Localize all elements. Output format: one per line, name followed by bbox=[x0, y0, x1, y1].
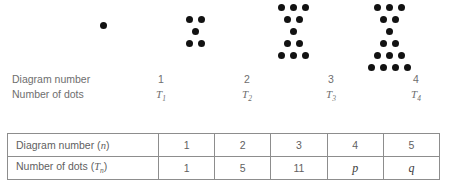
dot bbox=[392, 40, 399, 47]
table-cell: 2 bbox=[215, 134, 271, 157]
caption-row-diagram-number: Diagram number 1 2 3 4 bbox=[0, 73, 470, 88]
table-cell: 1 bbox=[159, 134, 215, 157]
sequence-table: Diagram number (n)12345Number of dots (T… bbox=[7, 133, 440, 180]
dot bbox=[404, 64, 411, 71]
dot bbox=[290, 4, 297, 11]
dot bbox=[380, 40, 387, 47]
dot bbox=[100, 22, 107, 29]
dot bbox=[386, 52, 393, 59]
dot bbox=[386, 4, 393, 11]
caption-row-number-of-dots: Number of dots T1 T2 T3 T4 bbox=[0, 88, 470, 103]
dot bbox=[368, 64, 375, 71]
table-cell: p bbox=[327, 157, 383, 180]
table-header-variable: n bbox=[101, 140, 106, 151]
dot bbox=[186, 16, 193, 23]
dot bbox=[192, 28, 199, 35]
dot bbox=[186, 40, 193, 47]
dot bbox=[392, 64, 399, 71]
caption-dots-term-3: T3 bbox=[311, 88, 351, 103]
table-cell: 4 bbox=[327, 134, 383, 157]
table-cell: 5 bbox=[383, 134, 439, 157]
dot bbox=[290, 28, 297, 35]
dot bbox=[198, 16, 205, 23]
caption-dots-subscript-1: 1 bbox=[162, 94, 166, 103]
caption-dots-term-1: T1 bbox=[141, 88, 181, 103]
dot bbox=[386, 28, 393, 35]
dot bbox=[302, 4, 309, 11]
sequence-table-body: Diagram number (n)12345Number of dots (T… bbox=[8, 134, 440, 180]
table-row: Diagram number (n)12345 bbox=[8, 134, 440, 157]
caption-dots-subscript-2: 2 bbox=[248, 94, 252, 103]
table-cell: 3 bbox=[271, 134, 327, 157]
caption-diagram-number-2: 2 bbox=[227, 73, 267, 85]
dot-diagrams-figure bbox=[0, 0, 470, 70]
caption-dots-subscript-3: 3 bbox=[332, 94, 336, 103]
dot bbox=[284, 16, 291, 23]
table-row-header: Number of dots (Tn) bbox=[8, 157, 159, 180]
table-row: Number of dots (Tn)1511pq bbox=[8, 157, 440, 180]
caption-dots-subscript-4: 4 bbox=[417, 94, 421, 103]
table-header-subscript: n bbox=[100, 167, 104, 176]
caption-diagram-number-4: 4 bbox=[396, 73, 436, 85]
dot bbox=[284, 40, 291, 47]
table-header-variable: Tn bbox=[94, 161, 104, 172]
table-cell: q bbox=[383, 157, 439, 180]
dot bbox=[398, 52, 405, 59]
caption-diagram-number-1: 1 bbox=[141, 73, 181, 85]
caption-label-number-of-dots: Number of dots bbox=[12, 88, 84, 100]
dot bbox=[392, 16, 399, 23]
table-cell: 1 bbox=[159, 157, 215, 180]
caption-label-diagram-number: Diagram number bbox=[12, 73, 90, 85]
dot bbox=[374, 52, 381, 59]
dot bbox=[296, 40, 303, 47]
caption-dots-term-4: T4 bbox=[396, 88, 436, 103]
table-cell: 11 bbox=[271, 157, 327, 180]
dot bbox=[290, 52, 297, 59]
dot bbox=[278, 4, 285, 11]
dot bbox=[198, 40, 205, 47]
dot bbox=[380, 16, 387, 23]
dot bbox=[302, 52, 309, 59]
dot bbox=[296, 16, 303, 23]
dot bbox=[278, 52, 285, 59]
dot bbox=[374, 4, 381, 11]
table-row-header: Diagram number (n) bbox=[8, 134, 159, 157]
caption-diagram-number-3: 3 bbox=[311, 73, 351, 85]
dot bbox=[380, 64, 387, 71]
table-cell: 5 bbox=[215, 157, 271, 180]
dot bbox=[398, 4, 405, 11]
caption-dots-term-2: T2 bbox=[227, 88, 267, 103]
